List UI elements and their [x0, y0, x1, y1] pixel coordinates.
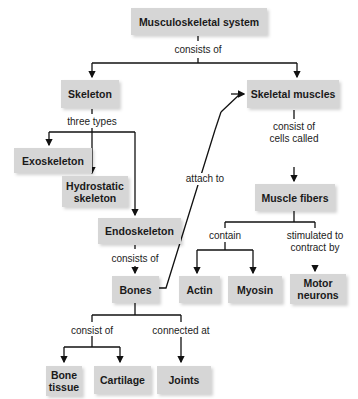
label-contain: contain: [200, 230, 250, 242]
node-myosin: Myosin: [228, 276, 282, 303]
node-bone-tissue: Bone tissue: [46, 366, 82, 396]
node-label-line1: Hydrostatic: [66, 180, 124, 192]
label-connected-at: connected at: [146, 325, 216, 337]
node-actin: Actin: [179, 276, 220, 303]
label-attach-to: attach to: [180, 173, 230, 185]
node-endoskeleton: Endoskeleton: [98, 218, 181, 244]
node-label: Skeletal muscles: [251, 88, 336, 100]
node-label: Exoskeleton: [22, 155, 84, 167]
node-joints: Joints: [157, 366, 211, 394]
node-skeletal-muscles: Skeletal muscles: [247, 80, 339, 108]
node-label: Joints: [169, 374, 200, 386]
label-stimulated-1: stimulated to: [282, 230, 348, 242]
node-label: Cartilage: [100, 374, 145, 386]
label-three-types: three types: [62, 116, 122, 128]
node-label-line2: tissue: [49, 381, 79, 393]
label-consist-of-cells-2: cells called: [264, 133, 324, 145]
node-muscle-fibers: Muscle fibers: [255, 184, 335, 211]
node-exoskeleton: Exoskeleton: [14, 148, 92, 173]
node-label-line2: neurons: [297, 289, 338, 301]
node-motor-neurons: Motor neurons: [290, 274, 346, 304]
node-label: Skeleton: [68, 88, 112, 100]
node-label: Musculoskeletal system: [139, 16, 259, 28]
node-label-line1: Bone: [51, 369, 77, 381]
node-bones: Bones: [112, 276, 159, 303]
node-label: Myosin: [237, 284, 273, 296]
node-label: Bones: [119, 284, 151, 296]
node-label-line2: skeleton: [74, 192, 117, 204]
node-label: Endoskeleton: [105, 225, 174, 237]
label-consist-of-cells-1: consist of: [264, 121, 324, 133]
node-hydrostatic-skeleton: Hydrostatic skeleton: [62, 176, 128, 207]
label-consists-of-endo: consists of: [105, 253, 165, 265]
node-label: Muscle fibers: [261, 192, 328, 204]
label-consists-of-top: consists of: [168, 44, 228, 56]
label-consist-of-bones: consist of: [62, 325, 122, 337]
node-label: Actin: [186, 284, 212, 296]
label-stimulated-2: contract by: [282, 242, 348, 254]
node-cartilage: Cartilage: [94, 366, 151, 394]
node-label-line1: Motor: [303, 277, 332, 289]
node-musculoskeletal-system: Musculoskeletal system: [131, 8, 267, 35]
node-skeleton: Skeleton: [61, 80, 119, 108]
